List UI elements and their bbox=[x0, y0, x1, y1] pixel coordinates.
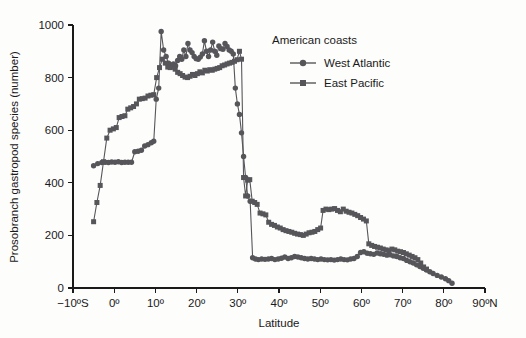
data-point-square bbox=[104, 136, 109, 141]
data-point-square bbox=[234, 57, 239, 62]
legend-label-square: East Pacific bbox=[324, 77, 384, 89]
legend-marker-square bbox=[300, 80, 306, 86]
x-tick-label: 50º bbox=[312, 297, 330, 309]
y-tick-label: 600 bbox=[45, 124, 64, 136]
data-point-square bbox=[122, 113, 127, 118]
y-tick-label: 400 bbox=[45, 177, 64, 189]
y-tick-label: 200 bbox=[45, 229, 64, 241]
data-point-square bbox=[151, 92, 156, 97]
x-tick-label: 90ºN bbox=[472, 297, 497, 309]
data-point-circle bbox=[156, 85, 161, 90]
data-point-square bbox=[364, 218, 369, 223]
x-tick-label: 40º bbox=[271, 297, 289, 309]
y-tick-label: 0 bbox=[58, 282, 64, 294]
x-tick-label: 20º bbox=[188, 297, 206, 309]
data-point-circle bbox=[237, 112, 242, 117]
data-point-square bbox=[134, 101, 139, 106]
data-point-square bbox=[247, 177, 252, 182]
x-tick-label: 70º bbox=[394, 297, 412, 309]
data-point-square bbox=[94, 200, 99, 205]
data-point-square bbox=[263, 212, 268, 217]
data-point-square bbox=[243, 193, 248, 198]
data-point-circle bbox=[202, 38, 207, 43]
data-point-circle bbox=[158, 29, 163, 34]
data-point-circle bbox=[235, 101, 240, 106]
data-point-circle bbox=[206, 54, 211, 59]
data-point-square bbox=[318, 226, 323, 231]
data-point-circle bbox=[139, 147, 144, 152]
data-point-circle bbox=[181, 47, 186, 52]
chart-plot-svg: 02004006008001000−10ºS0º10º20º30º40º50º6… bbox=[0, 0, 526, 338]
y-tick-label: 1000 bbox=[38, 19, 64, 31]
data-point-square bbox=[91, 219, 96, 224]
chart-figure: 02004006008001000−10ºS0º10º20º30º40º50º6… bbox=[0, 0, 526, 338]
data-point-square bbox=[101, 159, 106, 164]
x-axis-title: Latitude bbox=[259, 317, 300, 329]
series-group bbox=[91, 29, 455, 286]
legend-marker-circle bbox=[300, 60, 306, 66]
data-point-square bbox=[114, 125, 119, 130]
data-point-square bbox=[237, 49, 242, 54]
data-point-circle bbox=[129, 160, 134, 165]
data-point-square bbox=[154, 75, 159, 80]
y-tick-label: 800 bbox=[45, 72, 64, 84]
data-point-circle bbox=[183, 54, 188, 59]
x-tick-label: 80º bbox=[435, 297, 453, 309]
legend-entry-1[interactable]: West Atlantic bbox=[290, 57, 391, 69]
data-point-circle bbox=[161, 47, 166, 52]
x-tick-label: 10º bbox=[147, 297, 165, 309]
x-tick-label: 30º bbox=[229, 297, 247, 309]
data-point-circle bbox=[449, 281, 454, 286]
series-1 bbox=[91, 29, 455, 286]
data-point-square bbox=[157, 65, 162, 70]
legend-label-circle: West Atlantic bbox=[324, 57, 391, 69]
data-point-square bbox=[239, 57, 244, 62]
legend-entry-2[interactable]: East Pacific bbox=[290, 77, 384, 89]
axis-spine bbox=[73, 25, 485, 288]
y-axis-title: Prosobranch gastropod species (number) bbox=[8, 51, 20, 263]
data-point-circle bbox=[239, 130, 244, 135]
data-point-circle bbox=[185, 41, 190, 46]
data-point-circle bbox=[151, 139, 156, 144]
legend-group: American coastsWest AtlanticEast Pacific bbox=[272, 34, 391, 89]
data-point-circle bbox=[214, 53, 219, 58]
series-line-circle bbox=[94, 32, 452, 284]
data-point-square bbox=[424, 267, 429, 272]
data-point-circle bbox=[210, 39, 215, 44]
data-point-circle bbox=[154, 96, 159, 101]
data-point-square bbox=[255, 202, 260, 207]
data-point-square bbox=[98, 183, 103, 188]
x-tick-label: 60º bbox=[353, 297, 371, 309]
x-tick-label: 0º bbox=[109, 297, 120, 309]
legend-title: American coasts bbox=[272, 34, 357, 46]
data-point-circle bbox=[231, 51, 236, 56]
x-tick-label: −10ºS bbox=[57, 297, 89, 309]
data-point-circle bbox=[233, 85, 238, 90]
